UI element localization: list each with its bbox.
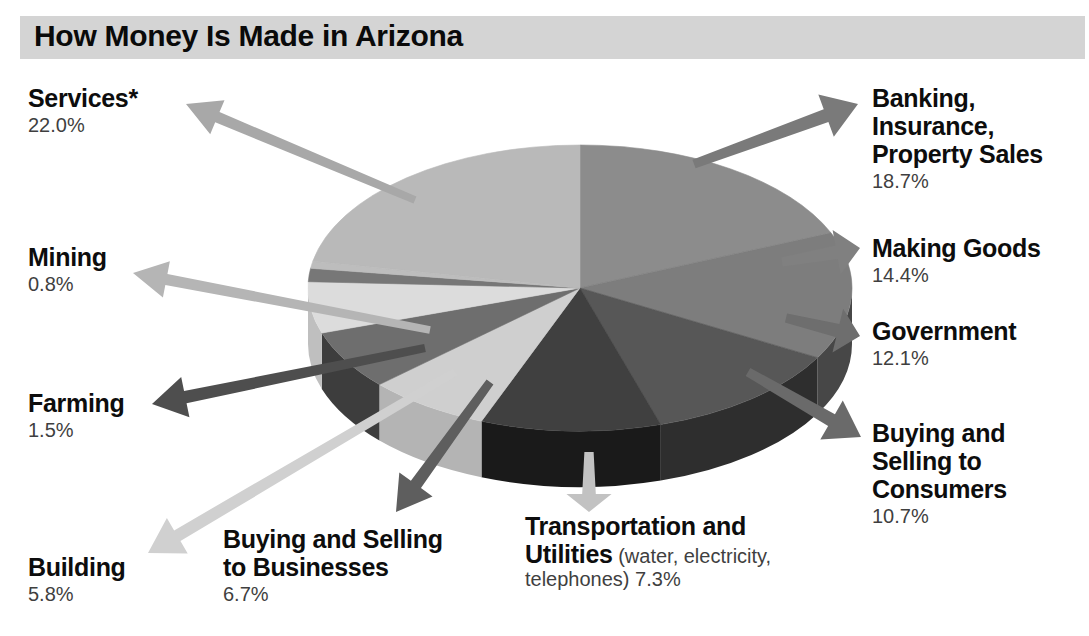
label-making-goods: Making Goods 14.4%: [872, 234, 1041, 287]
label-building: Building 5.8%: [28, 553, 126, 606]
label-mining: Mining 0.8%: [28, 243, 107, 296]
label-bscon-name-line3: Consumers: [872, 475, 1082, 503]
label-farming: Farming 1.5%: [28, 389, 125, 442]
label-transport-name-line2: Utilities: [525, 540, 613, 568]
label-buying-selling-businesses: Buying and Selling to Businesses 6.7%: [223, 525, 493, 606]
label-transport-note-line1: (water, electricity,: [613, 545, 772, 567]
label-banking-pct: 18.7%: [872, 169, 1087, 193]
label-building-name: Building: [28, 553, 126, 581]
label-bscon-name-line1: Buying and: [872, 419, 1082, 447]
label-transportation: Transportation and Utilities (water, ele…: [525, 512, 855, 591]
label-govt-name: Government: [872, 317, 1016, 345]
label-banking-name-line2: Insurance,: [872, 112, 1087, 140]
label-banking-name-line1: Banking,: [872, 84, 1087, 112]
label-transport-pct: 7.3%: [635, 568, 681, 590]
label-govt-pct: 12.1%: [872, 346, 1016, 370]
label-bscon-name-line2: Selling to: [872, 447, 1082, 475]
label-bscon-pct: 10.7%: [872, 504, 1082, 528]
label-goods-name: Making Goods: [872, 234, 1041, 262]
label-mining-name: Mining: [28, 243, 107, 271]
label-services-name: Services*: [28, 84, 138, 112]
callout-arrow-services: [186, 100, 416, 203]
label-government: Government 12.1%: [872, 317, 1016, 370]
label-banking-name-line3: Property Sales: [872, 140, 1087, 168]
label-services: Services* 22.0%: [28, 84, 138, 137]
callout-arrow-banking-insurance-property-sales: [692, 95, 858, 169]
label-transport-name-line1: Transportation and: [525, 512, 855, 540]
label-farming-name: Farming: [28, 389, 125, 417]
label-banking: Banking, Insurance, Property Sales 18.7%: [872, 84, 1087, 193]
label-goods-pct: 14.4%: [872, 263, 1041, 287]
label-bsbus-name-line2: to Businesses: [223, 553, 493, 581]
label-buying-selling-consumers: Buying and Selling to Consumers 10.7%: [872, 419, 1082, 528]
label-building-pct: 5.8%: [28, 582, 126, 606]
label-services-pct: 22.0%: [28, 113, 138, 137]
label-farming-pct: 1.5%: [28, 418, 125, 442]
label-bsbus-name-line1: Buying and Selling: [223, 525, 493, 553]
label-bsbus-pct: 6.7%: [223, 582, 493, 606]
chart-canvas: How Money Is Made in Arizona Services* 2…: [0, 0, 1089, 636]
label-mining-pct: 0.8%: [28, 272, 107, 296]
label-transport-note-line2: telephones): [525, 568, 635, 590]
